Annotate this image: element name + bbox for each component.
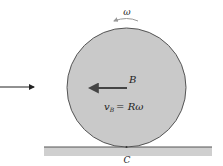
contact-point-marker	[126, 146, 128, 148]
velocity-rhs: = Rω	[116, 101, 143, 112]
rotation-arrow-icon	[114, 19, 138, 22]
velocity-subscript: B	[109, 106, 115, 113]
center-point-label: B	[128, 74, 136, 85]
omega-label: ω	[123, 7, 131, 17]
contact-point-label: C	[124, 155, 131, 165]
rolling-disk-diagram: ω B vB= Rω C	[0, 0, 223, 166]
